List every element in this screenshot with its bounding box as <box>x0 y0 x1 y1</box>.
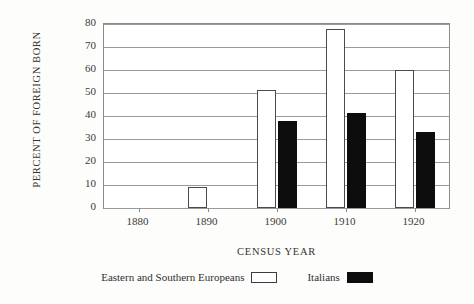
plot-area <box>103 23 450 209</box>
x-tick-label-1880: 1880 <box>127 215 149 227</box>
x-tick-mark <box>139 208 140 212</box>
legend-label: Eastern and Southern Europeans <box>101 271 244 283</box>
legend-swatch-light <box>251 272 277 283</box>
bar-1910-series1 <box>326 29 345 208</box>
bar-chart-figure: PERCENT OF FOREIGN BORN 0102030405060708… <box>0 0 474 304</box>
y-tick-label: 50 <box>62 86 96 97</box>
bar-1900-series1 <box>257 90 276 208</box>
y-tick-label: 30 <box>62 132 96 143</box>
chart-legend: Eastern and Southern EuropeansItalians <box>0 271 474 283</box>
x-axis-tick-labels: 18801890190019101920 <box>103 215 450 231</box>
x-tick-label-1900: 1900 <box>265 215 287 227</box>
x-tick-mark <box>415 208 416 212</box>
bar-1920-series1 <box>395 70 414 208</box>
y-tick-label: 80 <box>62 17 96 28</box>
legend-swatch-dark <box>347 272 373 283</box>
bar-1900-series2 <box>278 121 297 208</box>
legend-entry-1: Eastern and Southern Europeans <box>101 271 277 283</box>
x-tick-mark <box>346 208 347 212</box>
legend-label: Italians <box>307 271 339 283</box>
y-axis-tick-labels: 01020304050607080 <box>62 23 96 209</box>
legend-entry-2: Italians <box>307 271 372 283</box>
y-tick-label: 10 <box>62 178 96 189</box>
x-tick-label-1890: 1890 <box>196 215 218 227</box>
y-tick-label: 0 <box>62 201 96 212</box>
y-tick-label: 40 <box>62 109 96 120</box>
y-axis-title: PERCENT OF FOREIGN BORN <box>31 10 42 210</box>
gridline <box>104 47 449 48</box>
x-tick-mark <box>277 208 278 212</box>
bar-1910-series2 <box>347 113 366 208</box>
x-tick-mark <box>208 208 209 212</box>
y-tick-label: 20 <box>62 155 96 166</box>
y-tick-label: 60 <box>62 63 96 74</box>
x-axis-title: CENSUS YEAR <box>103 246 450 257</box>
gridline <box>104 24 449 25</box>
bar-1890-series1 <box>188 187 207 208</box>
x-tick-label-1920: 1920 <box>403 215 425 227</box>
y-tick-label: 70 <box>62 40 96 51</box>
bar-1920-series2 <box>416 132 435 208</box>
x-tick-label-1910: 1910 <box>334 215 356 227</box>
